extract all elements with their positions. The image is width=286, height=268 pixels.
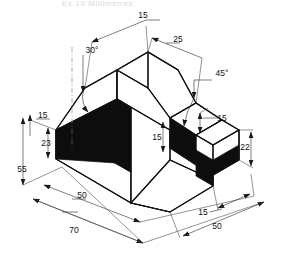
dim-label-top-left-15: 15: [138, 10, 148, 20]
isometric-drawing: Ex 10 Millimetres: [0, 0, 286, 268]
dim-label-bottom-left-50: 50: [77, 190, 87, 200]
dim-left-55: 55: [17, 118, 62, 185]
dim-label-mid-right-15: 15: [152, 132, 162, 142]
dim-left-15: 15: [30, 110, 56, 136]
dim-label-right-22: 22: [240, 142, 250, 152]
dim-label-left-55: 55: [17, 164, 27, 174]
dim-left-23: 23: [41, 128, 51, 158]
dim-label-right-upper-15: 15: [217, 113, 227, 123]
dim-right-22: 22: [239, 130, 253, 168]
dim-label-left-15: 15: [38, 110, 48, 120]
dim-label-left-23: 23: [41, 138, 51, 148]
dim-label-angle-45: 45°: [216, 68, 229, 78]
dim-label-top-right-25: 25: [173, 34, 183, 44]
dim-label-bottom-left-70: 70: [69, 225, 79, 235]
solid-body: [56, 52, 239, 212]
drawing-canvas: Ex 10 Millimetres: [0, 0, 286, 268]
title-fragment: Ex 10 Millimetres: [62, 0, 133, 8]
dim-bottom-right-50: 50: [170, 202, 264, 238]
dim-label-angle-30: 30°: [86, 45, 99, 55]
dim-label-bottom-right-50: 50: [212, 221, 222, 231]
